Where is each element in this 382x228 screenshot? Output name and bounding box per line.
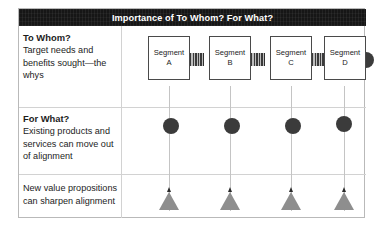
coil-connector-ab <box>189 53 204 66</box>
weight-b <box>224 118 240 134</box>
pendulum-b <box>220 192 240 210</box>
segment-box-c[interactable]: Segment C <box>270 36 312 80</box>
segment-box-b[interactable]: Segment B <box>209 36 251 80</box>
row-body-1: Target needs and benefits sought—the why… <box>23 44 119 82</box>
weight-a <box>163 118 179 134</box>
coil-connector-bc <box>250 53 265 66</box>
end-cap-disc <box>365 52 374 68</box>
figure-grid: To Whom? Target needs and benefits sough… <box>19 26 366 218</box>
pendulum-d <box>334 192 354 210</box>
row-heading-1: To Whom? <box>23 31 119 44</box>
row-label-to-whom: To Whom? Target needs and benefits sough… <box>23 31 119 82</box>
diagram-area: Segment A Segment B Segment C Segment D <box>122 26 366 218</box>
pendulum-tip-d <box>342 187 346 192</box>
segment-sublabel-a: A <box>166 58 171 68</box>
segment-sublabel-d: D <box>342 58 347 68</box>
segment-label-b: Segment <box>215 48 245 58</box>
pendulum-tip-a <box>167 187 171 192</box>
segment-label-c: Segment <box>276 48 306 58</box>
row-body-2: Existing products and services can move … <box>23 125 119 163</box>
segment-label-d: Segment <box>330 48 360 58</box>
figure-title-bar: Importance of To Whom? For What? <box>19 9 366 26</box>
row-label-new-value-props: New value propositions can sharpen align… <box>23 182 119 207</box>
figure-frame: Importance of To Whom? For What? To Whom… <box>18 8 365 218</box>
pendulum-c <box>281 192 301 210</box>
segment-sublabel-b: B <box>227 58 232 68</box>
pendulum-tip-b <box>228 187 232 192</box>
segment-box-d[interactable]: Segment D <box>324 36 366 80</box>
segment-label-a: Segment <box>154 48 184 58</box>
weight-c <box>285 118 301 134</box>
segment-sublabel-c: C <box>288 58 293 68</box>
segment-box-a[interactable]: Segment A <box>148 36 190 80</box>
pendulum-a <box>159 192 179 210</box>
row-label-for-what: For What? Existing products and services… <box>23 112 119 163</box>
weight-d <box>336 116 352 132</box>
row-body-3: New value propositions can sharpen align… <box>23 182 119 207</box>
pendulum-tip-c <box>289 187 293 192</box>
figure-title: Importance of To Whom? For What? <box>112 13 273 23</box>
row-heading-2: For What? <box>23 112 119 125</box>
